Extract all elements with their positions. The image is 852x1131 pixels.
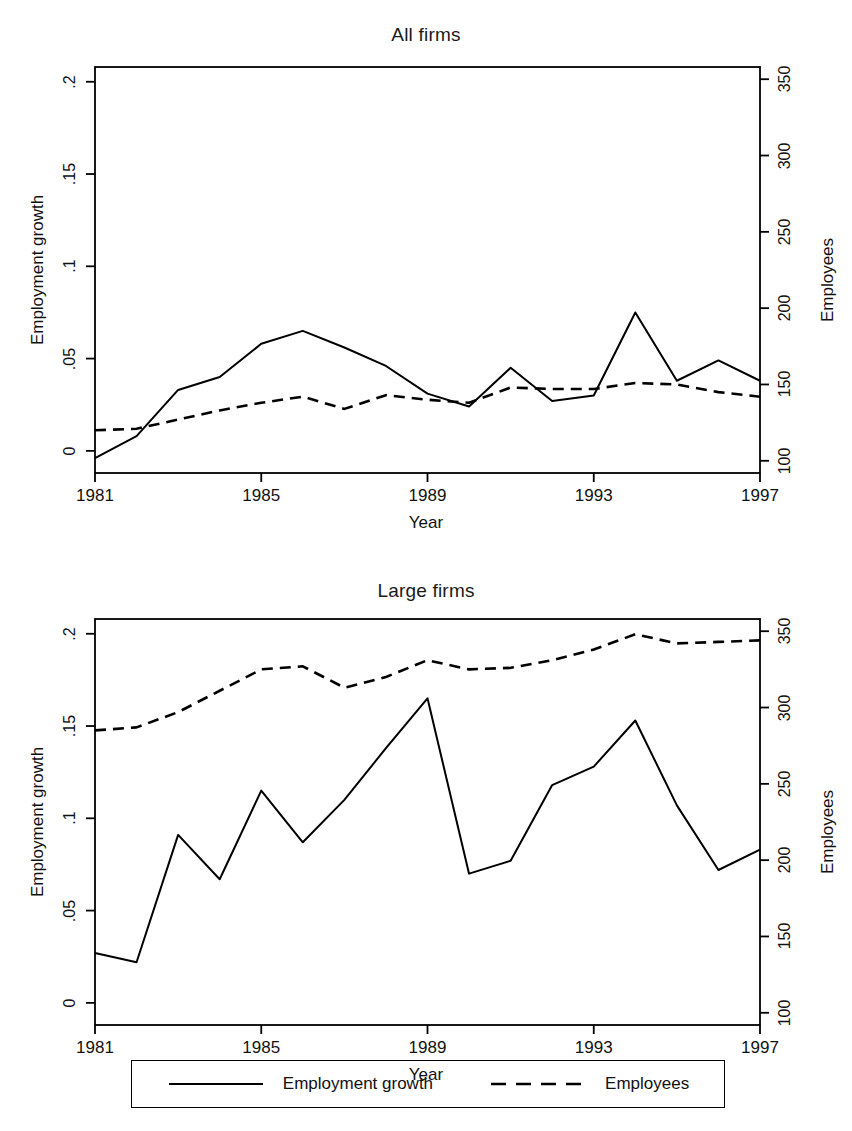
y-tick-label-left: .1: [61, 812, 79, 825]
plot-frame: [95, 619, 760, 1025]
y-axis-title-left: Employment growth: [28, 195, 48, 345]
y-tick-label-left: .05: [61, 899, 79, 921]
series-line-employees: [95, 383, 760, 430]
y-tick-label-left: .2: [61, 75, 79, 88]
x-tick-label: 1997: [741, 486, 779, 506]
x-tick-label: 1981: [76, 486, 114, 506]
plot-frame: [95, 67, 760, 473]
series-line-employment-growth: [95, 698, 760, 962]
x-tick-label: 1989: [409, 1038, 447, 1058]
plot-area-large-firms: [0, 556, 852, 1056]
chart-panel-all-firms: All firms: [0, 0, 852, 540]
y-tick-label-left: .1: [61, 260, 79, 273]
y-tick-label-left: .05: [61, 347, 79, 369]
y-axis-title-right: Employees: [818, 790, 838, 874]
y-tick-label-right: 200: [776, 295, 794, 322]
y-tick-label-left: 0: [61, 998, 79, 1007]
y-tick-label-right: 150: [776, 923, 794, 950]
y-tick-label-left: .2: [61, 627, 79, 640]
y-tick-label-right: 300: [776, 142, 794, 169]
y-tick-label-right: 300: [776, 694, 794, 721]
x-tick-label: 1985: [242, 1038, 280, 1058]
x-axis-title: Year: [0, 513, 852, 533]
x-tick-label: 1993: [575, 486, 613, 506]
x-tick-label: 1985: [242, 486, 280, 506]
chart-panel-large-firms: Large firms: [0, 556, 852, 1056]
y-tick-label-left: 0: [61, 446, 79, 455]
y-tick-label-right: 250: [776, 218, 794, 245]
y-tick-label-right: 100: [776, 999, 794, 1026]
x-axis-title: Year: [0, 1065, 852, 1085]
y-tick-label-right: 150: [776, 371, 794, 398]
x-tick-label: 1997: [741, 1038, 779, 1058]
x-tick-label: 1993: [575, 1038, 613, 1058]
y-tick-label-right: 350: [776, 66, 794, 93]
figure-page: All firms Large firms Employment growth …: [0, 0, 852, 1131]
y-tick-label-right: 250: [776, 770, 794, 797]
series-line-employees: [95, 634, 760, 730]
series-line-employment-growth: [95, 312, 760, 458]
y-tick-label-left: .15: [61, 715, 79, 737]
y-tick-label-left: .15: [61, 163, 79, 185]
y-tick-label-right: 100: [776, 447, 794, 474]
x-tick-label: 1989: [409, 486, 447, 506]
y-axis-title-right: Employees: [818, 238, 838, 322]
y-tick-label-right: 200: [776, 847, 794, 874]
plot-area-all-firms: [0, 0, 852, 540]
y-axis-title-left: Employment growth: [28, 747, 48, 897]
x-tick-label: 1981: [76, 1038, 114, 1058]
y-tick-label-right: 350: [776, 618, 794, 645]
